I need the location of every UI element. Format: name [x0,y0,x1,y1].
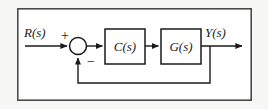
plant-block-label: G(s) [169,39,192,54]
controller-block-label: C(s) [114,39,136,54]
summer-plus-sign: + [61,28,69,43]
input-signal-label: R(s) [23,25,46,40]
output-signal-label: Y(s) [205,25,226,40]
block-diagram-figure: C(s) G(s) R(s) Y(s) + − [0,0,268,109]
diagram-canvas: C(s) G(s) R(s) Y(s) + − [0,0,268,109]
summing-junction [70,38,87,55]
summer-minus-sign: − [87,54,95,69]
